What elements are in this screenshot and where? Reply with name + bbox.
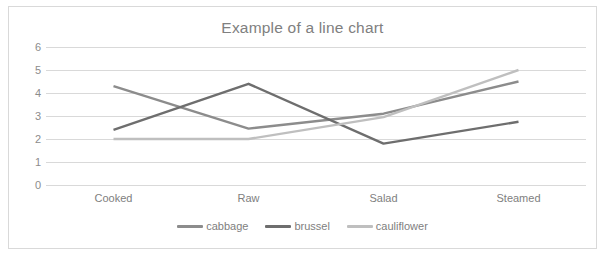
- legend-label: cabbage: [206, 221, 248, 232]
- legend-swatch-icon: [265, 225, 291, 228]
- y-axis-tick-label: 3: [15, 111, 41, 122]
- chart-legend: cabbagebrusselcauliflower: [9, 221, 596, 232]
- legend-swatch-icon: [347, 225, 373, 228]
- plot-area: 0123456 CookedRawSaladSteamed: [9, 7, 598, 250]
- y-axis-tick-label: 2: [15, 134, 41, 145]
- legend-item-brussel[interactable]: brussel: [265, 221, 329, 232]
- series-lines: [46, 47, 586, 185]
- y-axis-tick-label: 4: [15, 88, 41, 99]
- chart-container: Example of a line chart 0123456 CookedRa…: [8, 6, 597, 249]
- x-axis-tick-label: Raw: [237, 193, 259, 204]
- legend-item-cabbage[interactable]: cabbage: [177, 221, 248, 232]
- legend-label: brussel: [294, 221, 329, 232]
- y-axis-tick-label: 1: [15, 157, 41, 168]
- y-axis: 0123456: [15, 47, 41, 185]
- x-axis: CookedRawSaladSteamed: [46, 193, 586, 211]
- legend-label: cauliflower: [376, 221, 428, 232]
- y-axis-tick-label: 5: [15, 65, 41, 76]
- series-line-cabbage: [114, 82, 519, 129]
- y-axis-tick-label: 6: [15, 42, 41, 53]
- x-axis-tick-label: Steamed: [496, 193, 540, 204]
- y-axis-tick-label: 0: [15, 180, 41, 191]
- legend-item-cauliflower[interactable]: cauliflower: [347, 221, 428, 232]
- gridline: [46, 185, 586, 186]
- legend-swatch-icon: [177, 225, 203, 228]
- x-axis-tick-label: Cooked: [95, 193, 133, 204]
- x-axis-tick-label: Salad: [369, 193, 397, 204]
- series-line-brussel: [114, 84, 519, 144]
